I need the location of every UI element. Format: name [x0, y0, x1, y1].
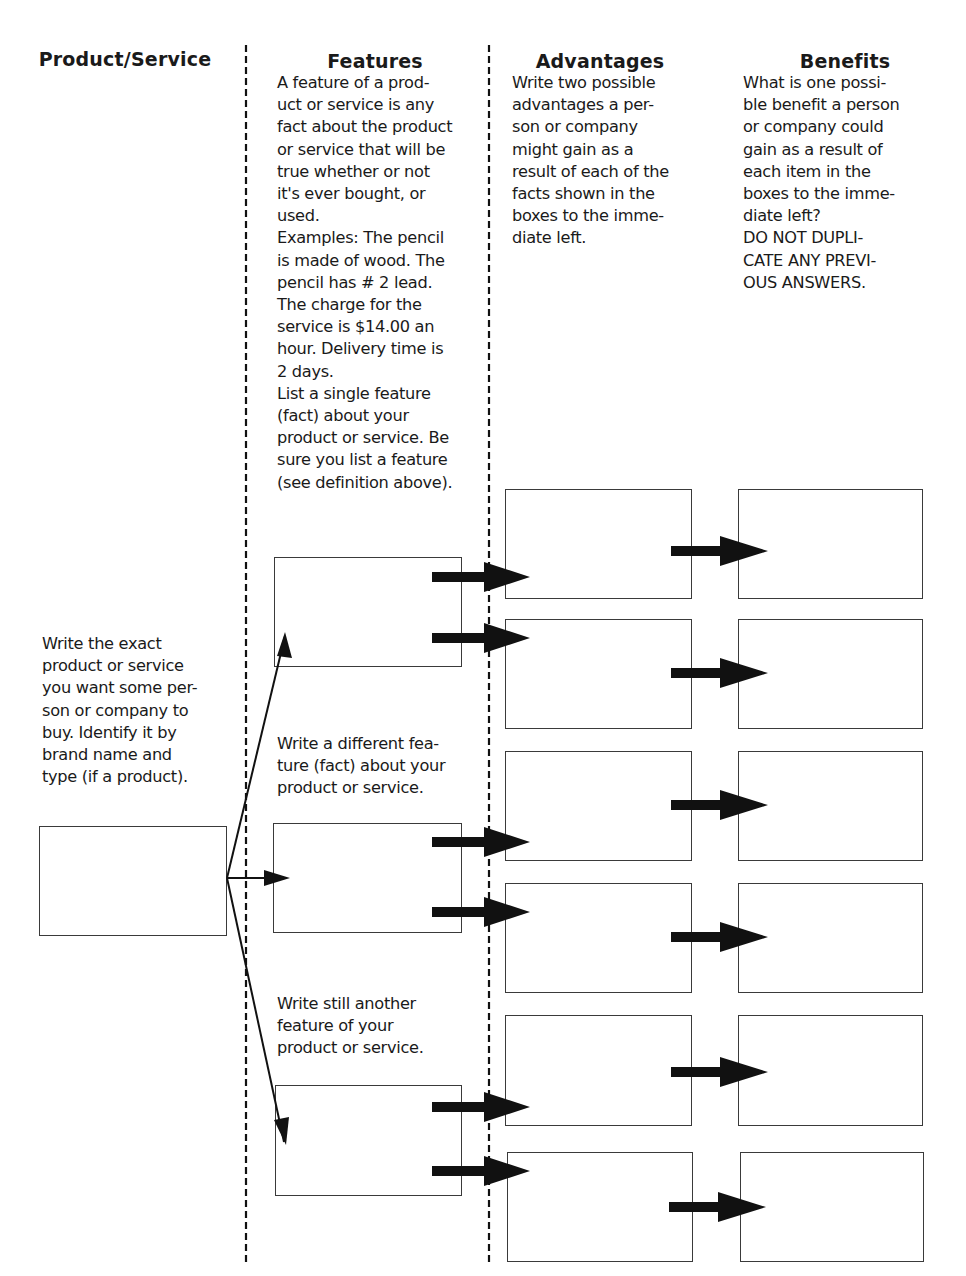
product-service-box[interactable] — [39, 826, 227, 936]
advantage-box-2[interactable] — [505, 619, 692, 729]
benefit-box-6[interactable] — [740, 1152, 924, 1262]
benefit-box-1[interactable] — [738, 489, 923, 599]
header-features: Features — [275, 50, 475, 72]
advantage-box-5[interactable] — [505, 1015, 692, 1126]
benefit-box-3[interactable] — [738, 751, 923, 861]
benefits-instruction: What is one possi- ble benefit a person … — [743, 72, 900, 294]
features-instruction-3: Write still another feature of your prod… — [277, 993, 424, 1060]
features-instruction-2: Write a different fea- ture (fact) about… — [277, 733, 445, 800]
feature-box-3[interactable] — [275, 1085, 462, 1196]
feature-box-1[interactable] — [274, 557, 462, 667]
benefit-box-2[interactable] — [738, 619, 923, 729]
advantage-box-6[interactable] — [507, 1152, 693, 1262]
feature-box-2[interactable] — [273, 823, 462, 933]
product-instruction: Write the exact product or service you w… — [42, 633, 197, 788]
header-benefits: Benefits — [745, 50, 945, 72]
advantages-instruction: Write two possible advantages a per- son… — [512, 72, 669, 250]
advantage-box-1[interactable] — [505, 489, 692, 599]
advantage-box-3[interactable] — [505, 751, 692, 861]
features-instruction: A feature of a prod- uct or service is a… — [277, 72, 452, 494]
benefit-box-4[interactable] — [738, 883, 923, 993]
header-product-service: Product/Service — [20, 48, 230, 70]
advantage-box-4[interactable] — [505, 883, 692, 993]
benefit-box-5[interactable] — [738, 1015, 923, 1126]
header-advantages: Advantages — [500, 50, 700, 72]
